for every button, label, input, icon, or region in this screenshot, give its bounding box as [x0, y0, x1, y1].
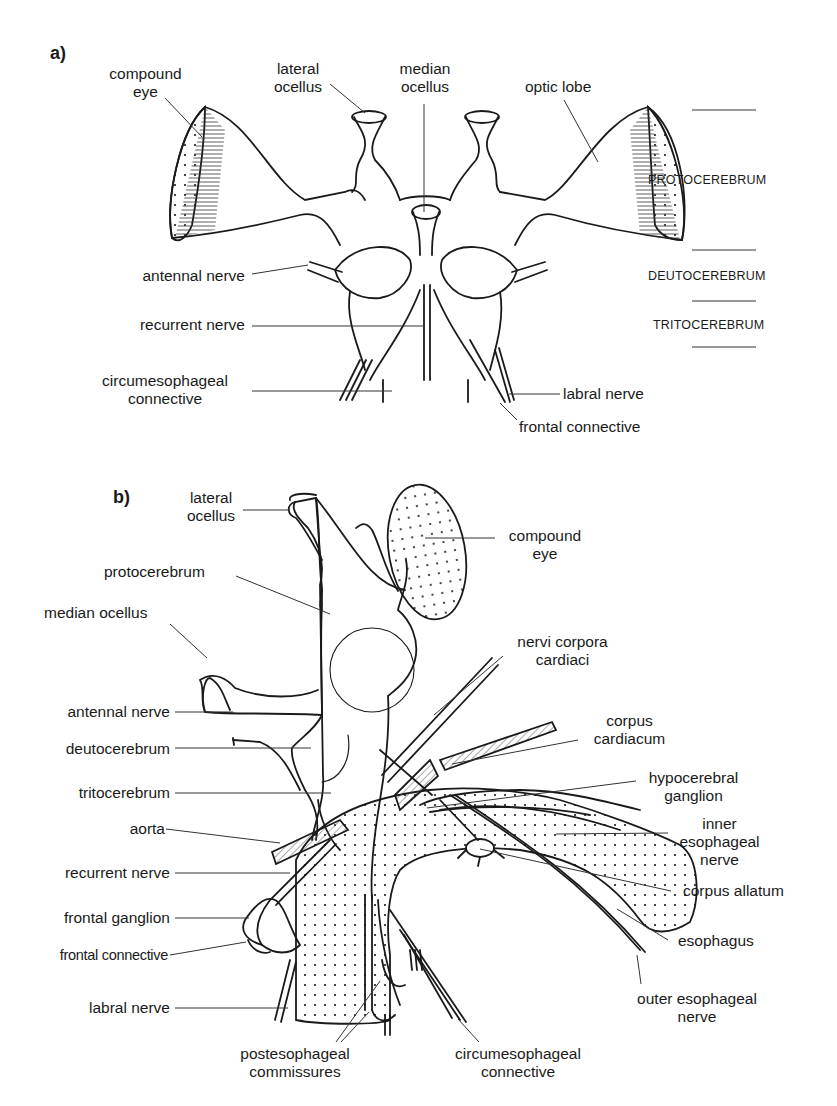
corpus-allatum-shape — [466, 839, 494, 857]
label-b-frontal-ganglion: frontal ganglion — [20, 909, 170, 927]
label-a-labral-nerve: labral nerve — [563, 385, 644, 403]
label-b-corpus-allatum: corpus allatum — [683, 882, 784, 900]
label-b-corpus-cardiacum: corpus cardiacum — [582, 712, 677, 748]
label-a-recurrent-nerve: recurrent nerve — [60, 316, 245, 334]
label-a-protocerebrum: PROTOCEREBRUM — [648, 171, 766, 189]
panel-b-label: b) — [113, 487, 130, 508]
label-b-tritocerebrum: tritocerebrum — [20, 784, 170, 802]
label-a-lateral-ocellus: lateral ocellus — [263, 60, 333, 96]
label-b-postesophageal-commissures: postesophageal commissures — [225, 1045, 365, 1081]
label-b-median-ocellus: median ocellus — [44, 604, 147, 622]
label-a-tritocerebrum: TRITOCEREBRUM — [653, 316, 764, 334]
label-b-compound-eye: compound eye — [500, 527, 590, 563]
label-b-labral-nerve: labral nerve — [20, 999, 170, 1017]
label-b-hypocerebral-ganglion: hypocerebral ganglion — [636, 769, 751, 805]
label-b-recurrent-nerve: recurrent nerve — [20, 864, 170, 882]
label-a-optic-lobe: optic lobe — [525, 78, 591, 96]
label-b-antennal-nerve: antennal nerve — [20, 703, 170, 721]
label-b-esophagus: esophagus — [678, 932, 754, 950]
label-b-nervi-corpora-cardiaci: nervi corpora cardiaci — [505, 633, 620, 669]
label-b-frontal-connective: frontal connective — [10, 946, 168, 964]
label-a-frontal-connective: frontal connective — [519, 418, 641, 436]
panel-a-drawing — [170, 107, 684, 402]
label-a-median-ocellus: median ocellus — [390, 60, 460, 96]
label-b-outer-esophageal-nerve: outer esophageal nerve — [627, 990, 767, 1026]
label-b-aorta: aorta — [60, 820, 165, 838]
label-b-deutocerebrum: deutocerebrum — [20, 740, 170, 758]
label-a-deutocerebrum: DEUTOCEREBRUM — [648, 267, 766, 285]
label-a-antennal-nerve: antennal nerve — [60, 267, 245, 285]
label-a-compound-eye: compound eye — [98, 65, 193, 101]
frontal-ganglion-shape — [243, 899, 300, 953]
left-compound-eye — [170, 107, 225, 240]
panel-a-leaders — [165, 84, 756, 420]
panel-a-label: a) — [50, 43, 66, 64]
label-b-circumesophageal-connective: circumesophageal connective — [438, 1045, 598, 1081]
insect-brain-figure: a) compound eye lateral ocellus median o… — [0, 0, 837, 1106]
label-b-inner-esophageal-nerve: inner esophageal nerve — [672, 815, 767, 869]
label-a-circumesophageal-connective: circumesophageal connective — [85, 372, 245, 408]
label-b-protocerebrum: protocerebrum — [104, 563, 205, 581]
label-b-lateral-ocellus: lateral ocellus — [180, 489, 242, 525]
panel-b-drawing — [200, 478, 697, 1035]
compound-eye-shape — [378, 478, 476, 625]
